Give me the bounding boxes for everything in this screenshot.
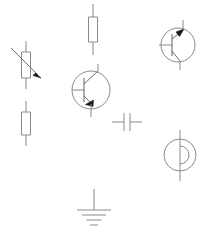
- resistor-lower-left[interactable]: [22, 101, 31, 146]
- ground[interactable]: [77, 189, 111, 225]
- variable-resistor[interactable]: [11, 41, 41, 89]
- transistor-pnp[interactable]: [159, 20, 195, 70]
- transistor-npn-collector-slant: [84, 71, 98, 84]
- current-source-inner-curve: [180, 146, 189, 164]
- current-source[interactable]: [164, 130, 196, 181]
- transistor-pnp-emitter-slant: [172, 51, 180, 61]
- transistor-npn[interactable]: [72, 64, 110, 117]
- variable-resistor-body: [22, 52, 31, 78]
- resistor-top-center-body: [89, 17, 98, 42]
- capacitor[interactable]: [112, 113, 142, 131]
- circuit-diagram-svg: [0, 0, 207, 233]
- resistor-lower-left-body: [22, 112, 31, 135]
- circuit-symbols-canvas: [0, 0, 207, 233]
- resistor-top-center[interactable]: [89, 4, 98, 55]
